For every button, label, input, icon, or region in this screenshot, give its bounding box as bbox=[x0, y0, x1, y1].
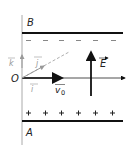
j-vector-arrow bbox=[22, 66, 44, 78]
positive-charges bbox=[26, 111, 115, 116]
i-label: i bbox=[31, 85, 34, 94]
velocity-label-subscript: 0 bbox=[61, 89, 65, 97]
j-label: j bbox=[35, 59, 39, 68]
field-label: E bbox=[100, 58, 107, 69]
electric-field-diagram: B A O E k j i v 0 bbox=[0, 0, 136, 150]
plate-b-label: B bbox=[27, 17, 34, 28]
origin-label: O bbox=[11, 73, 19, 84]
plate-a-label: A bbox=[25, 127, 33, 138]
k-label: k bbox=[9, 59, 14, 68]
